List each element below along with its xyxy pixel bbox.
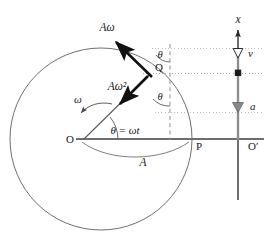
velocity-marker-icon	[233, 49, 243, 59]
angular-velocity-label: ω	[74, 93, 82, 105]
angle-equation-label: θ = ωt	[110, 124, 140, 136]
point-p-label: P	[196, 140, 202, 152]
velocity-vector-label: Aω	[98, 21, 114, 33]
velocity-axis-label: v	[248, 47, 253, 59]
point-o-prime-label: O′	[248, 140, 258, 152]
displacement-marker-icon	[235, 70, 241, 76]
angle-label-upper: θ	[157, 49, 162, 60]
rotation-sense-arc	[81, 103, 112, 113]
velocity-vector-arrow	[116, 42, 152, 77]
acceleration-vector-label: Aω²	[107, 80, 127, 92]
x-axis-label: x	[234, 13, 241, 25]
figure-root: Aω Aω² θ θ ω Q O P O′ θ = ωt A x v a	[0, 0, 268, 242]
circular-motion-diagram: Aω Aω² θ θ ω Q O P O′ θ = ωt A x v a	[0, 0, 268, 242]
angle-label-lower: θ	[157, 91, 162, 102]
point-o-label: O	[66, 133, 74, 145]
acceleration-axis-label: a	[250, 100, 256, 112]
acceleration-marker-icon	[233, 103, 244, 113]
radius-brace-arc	[82, 142, 189, 157]
point-q-label: Q	[155, 61, 163, 73]
radius-label: A	[138, 156, 147, 168]
